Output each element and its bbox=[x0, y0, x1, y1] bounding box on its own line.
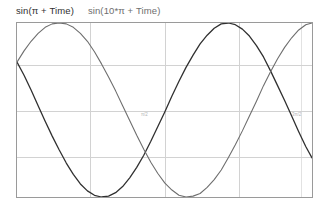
x-tick-label-1: 3π/2 bbox=[292, 113, 301, 118]
x-tick-label-0: π/2 bbox=[141, 113, 148, 118]
curve-plot0 bbox=[17, 23, 312, 197]
curve-plot1 bbox=[17, 23, 312, 197]
legend-entry-plot1[interactable]: sin(10*π + Time) bbox=[88, 6, 160, 16]
waveform-graph[interactable]: sin(π + Time) sin(10*π + Time) π/2 3π/2 bbox=[0, 0, 329, 217]
legend-entry-plot0[interactable]: sin(π + Time) bbox=[16, 6, 74, 16]
curves-layer bbox=[17, 23, 312, 197]
chart-legend: sin(π + Time) sin(10*π + Time) bbox=[16, 3, 160, 19]
plot-area[interactable]: π/2 3π/2 bbox=[16, 22, 313, 198]
